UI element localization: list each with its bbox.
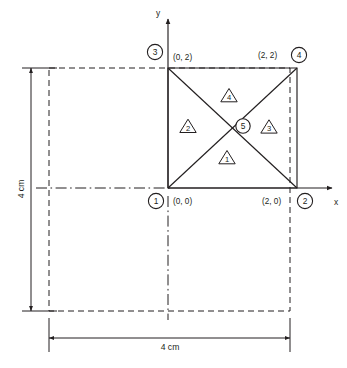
x-axis-label: x — [334, 197, 339, 207]
node-marker-4: 4 — [291, 47, 306, 62]
node-marker-2: 2 — [297, 193, 312, 208]
node-1-coordinate-label: (0, 0) — [173, 197, 192, 206]
horizontal-dimension: 4 cm — [49, 318, 290, 352]
element-marker-4: 4 — [221, 89, 237, 103]
vertical-dimension-label: 4 cm — [16, 180, 26, 199]
element-marker-3: 3 — [261, 120, 277, 134]
node-2-coordinate-label: (2, 0) — [262, 197, 281, 206]
node-3-number: 3 — [153, 47, 158, 57]
horizontal-dimension-label: 4 cm — [161, 342, 180, 352]
element-3-number: 3 — [267, 124, 271, 133]
element-4-number: 4 — [227, 93, 231, 102]
vertical-dimension: 4 cm — [16, 68, 57, 311]
node-5-number: 5 — [241, 121, 246, 131]
mesh-diagram-canvas: 1 2 3 4 5 (0, 0) (2, 0) (0, 2) (2, 2) 1 — [0, 0, 347, 368]
node-1-number: 1 — [154, 196, 159, 206]
node-marker-1: 1 — [148, 193, 163, 208]
node-3-coordinate-label: (0, 2) — [173, 53, 192, 62]
node-marker-3: 3 — [147, 44, 162, 59]
node-2-number: 2 — [303, 196, 308, 206]
node-4-number: 4 — [297, 50, 302, 60]
element-2-number: 2 — [186, 124, 190, 133]
y-axis-label: y — [156, 8, 161, 18]
node-marker-5: 5 — [236, 119, 250, 133]
diagram-figure: 1 2 3 4 5 (0, 0) (2, 0) (0, 2) (2, 2) 1 — [0, 0, 347, 368]
element-marker-2: 2 — [180, 119, 196, 133]
element-1-number: 1 — [225, 155, 229, 164]
element-marker-1: 1 — [219, 151, 235, 165]
node-4-coordinate-label: (2, 2) — [258, 51, 277, 60]
reference-boundary-rect — [49, 68, 290, 311]
